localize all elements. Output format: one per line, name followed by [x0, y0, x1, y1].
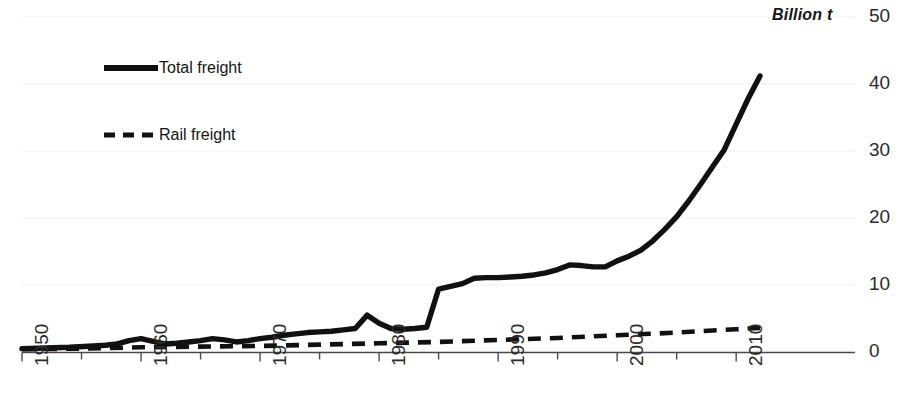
x-axis-tick-label: 1990 — [507, 324, 529, 366]
y-axis-tick-label: 10 — [869, 273, 890, 295]
y-axis-tick-label: 0 — [869, 340, 880, 362]
x-axis-tick-label: 2010 — [745, 324, 767, 366]
y-axis-tick-label: 50 — [869, 5, 890, 27]
y-axis-tick-label: 30 — [869, 139, 890, 161]
x-axis-tick-label: 1980 — [388, 324, 410, 366]
series-line-total-freight — [22, 76, 760, 349]
legend-label-total-freight: Total freight — [159, 59, 242, 77]
legend-label-rail-freight: Rail freight — [159, 126, 235, 144]
y-axis-unit-label: Billion t — [772, 6, 832, 24]
freight-chart: Billion t 01020304050 195019601970198019… — [0, 0, 898, 403]
x-axis-tick-label: 2000 — [626, 324, 648, 366]
x-axis-tick-label: 1970 — [269, 324, 291, 366]
y-axis-tick-label: 40 — [869, 72, 890, 94]
x-axis-tick-label: 1960 — [150, 324, 172, 366]
x-axis-tick-label: 1950 — [31, 324, 53, 366]
y-axis-tick-label: 20 — [869, 206, 890, 228]
gridlines — [22, 17, 855, 285]
